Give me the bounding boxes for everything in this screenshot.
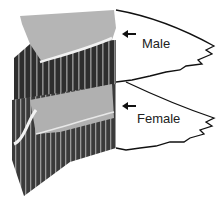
male-label: Male	[142, 36, 170, 51]
female-label: Female	[137, 111, 180, 126]
female-specimen	[12, 84, 116, 196]
specimen-illustration	[0, 0, 220, 202]
specimen-figure: Male Female	[0, 0, 220, 202]
